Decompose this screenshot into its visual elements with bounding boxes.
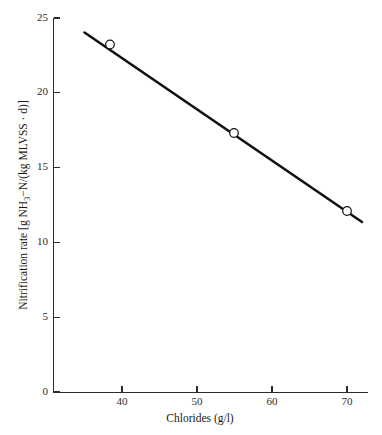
- nitrification-chloride-scatter-plot: 25 20 15 10 5 0 40 50 60 70: [0, 0, 382, 435]
- y-tick-label-0: 0: [43, 385, 49, 397]
- x-tick-label-60: 60: [267, 395, 279, 407]
- data-point-2: [230, 129, 239, 138]
- y-axis-title-prefix: Nitrification rate [g NH: [17, 201, 30, 310]
- x-tick-label-70: 70: [342, 395, 354, 407]
- y-tick-label-5: 5: [43, 310, 49, 322]
- y-tick-label-15: 15: [37, 160, 49, 172]
- x-axis-title: Chlorides (g/l): [166, 412, 234, 425]
- x-tick-label-50: 50: [192, 395, 204, 407]
- x-tick-label-40: 40: [117, 395, 129, 407]
- plot-background: [0, 0, 382, 435]
- data-point-3: [343, 207, 352, 216]
- y-tick-label-20: 20: [37, 85, 49, 97]
- y-tick-label-25: 25: [37, 11, 49, 23]
- y-tick-label-10: 10: [37, 235, 49, 247]
- data-point-1: [106, 40, 115, 49]
- y-axis-title-suffix: −N/(kg MLVSS · d)]: [17, 100, 30, 196]
